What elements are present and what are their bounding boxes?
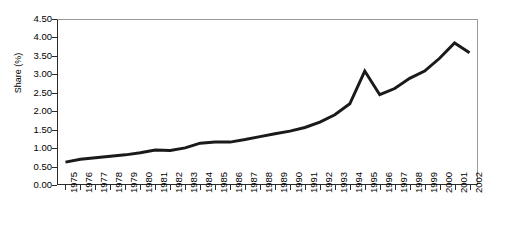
x-tick-mark — [170, 185, 171, 190]
x-tick-mark — [80, 185, 81, 190]
x-tick-label: 1999 — [429, 172, 439, 193]
x-tick-mark — [410, 185, 411, 190]
x-tick-label: 1978 — [114, 172, 124, 193]
x-tick-label: 1975 — [69, 172, 79, 193]
x-tick-label: 1981 — [159, 172, 169, 193]
x-tick-label: 1976 — [84, 172, 94, 193]
x-tick-mark — [155, 185, 156, 190]
x-tick-mark — [470, 185, 471, 190]
x-tick-mark — [110, 185, 111, 190]
x-tick-label: 1989 — [279, 172, 289, 193]
x-tick-mark — [440, 185, 441, 190]
x-tick-label: 1997 — [399, 172, 409, 193]
y-tick-mark — [52, 130, 57, 131]
share-percent-line-chart: Share (%) 0.000.501.001.502.002.503.003.… — [0, 0, 508, 238]
x-tick-label: 1996 — [384, 172, 394, 193]
y-tick-mark — [52, 167, 57, 168]
x-tick-mark — [245, 185, 246, 190]
x-tick-label: 1988 — [264, 172, 274, 193]
x-tick-mark — [455, 185, 456, 190]
x-tick-label: 1982 — [174, 172, 184, 193]
y-tick-mark — [52, 74, 57, 75]
x-tick-mark — [350, 185, 351, 190]
x-tick-label: 1980 — [144, 172, 154, 193]
x-tick-mark — [395, 185, 396, 190]
x-tick-label: 1993 — [339, 172, 349, 193]
x-tick-mark — [185, 185, 186, 190]
y-tick-mark — [52, 185, 57, 186]
y-tick-mark — [52, 93, 57, 94]
x-tick-mark — [275, 185, 276, 190]
x-tick-label: 2001 — [459, 172, 469, 193]
x-tick-label: 1991 — [309, 172, 319, 193]
x-tick-label: 1995 — [369, 172, 379, 193]
x-tick-label: 1984 — [204, 172, 214, 193]
x-tick-mark — [335, 185, 336, 190]
x-axis-tick-labels: 1975197619771978197919801981198219831984… — [0, 0, 508, 238]
x-tick-label: 1986 — [234, 172, 244, 193]
x-tick-label: 1979 — [129, 172, 139, 193]
y-tick-mark — [52, 56, 57, 57]
x-tick-label: 1983 — [189, 172, 199, 193]
y-tick-mark — [52, 111, 57, 112]
x-tick-mark — [215, 185, 216, 190]
x-tick-label: 1992 — [324, 172, 334, 193]
x-tick-mark — [65, 185, 66, 190]
x-tick-mark — [380, 185, 381, 190]
x-tick-mark — [320, 185, 321, 190]
y-tick-mark — [52, 148, 57, 149]
x-tick-mark — [140, 185, 141, 190]
x-tick-mark — [200, 185, 201, 190]
x-tick-label: 1977 — [99, 172, 109, 193]
x-tick-mark — [290, 185, 291, 190]
x-tick-label: 1994 — [354, 172, 364, 193]
x-tick-mark — [260, 185, 261, 190]
x-tick-label: 1985 — [219, 172, 229, 193]
x-tick-mark — [425, 185, 426, 190]
x-tick-label: 2002 — [474, 172, 484, 193]
x-tick-label: 1990 — [294, 172, 304, 193]
y-tick-mark — [52, 37, 57, 38]
y-tick-mark — [52, 19, 57, 20]
x-tick-label: 2000 — [444, 172, 454, 193]
x-tick-mark — [125, 185, 126, 190]
x-tick-mark — [95, 185, 96, 190]
x-tick-mark — [365, 185, 366, 190]
x-tick-mark — [305, 185, 306, 190]
x-tick-label: 1998 — [414, 172, 424, 193]
x-tick-mark — [230, 185, 231, 190]
x-tick-label: 1987 — [249, 172, 259, 193]
